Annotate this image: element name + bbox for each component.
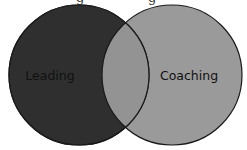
leading-label: Leading [25, 68, 74, 83]
venn-diagram: g g Leading Coaching [0, 0, 247, 150]
cropped-title-fragment-left: g [76, 0, 84, 5]
coaching-label: Coaching [160, 68, 218, 83]
cropped-title-fragment-right: g [148, 0, 156, 5]
